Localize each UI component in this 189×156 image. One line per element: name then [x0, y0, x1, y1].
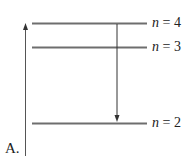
transition-arrow [115, 24, 120, 122]
n-variable: n [152, 115, 159, 130]
level-value: = 4 [159, 15, 181, 30]
level-label-n4: n = 4 [152, 16, 181, 30]
level-label-n3: n = 3 [152, 40, 181, 54]
n-variable: n [152, 39, 159, 54]
level-value: = 3 [159, 39, 181, 54]
option-label: A. [5, 141, 20, 155]
n-variable: n [152, 15, 159, 30]
level-value: = 2 [159, 115, 181, 130]
level-label-n2: n = 2 [152, 116, 181, 130]
energy-axis-arrow [23, 23, 28, 156]
